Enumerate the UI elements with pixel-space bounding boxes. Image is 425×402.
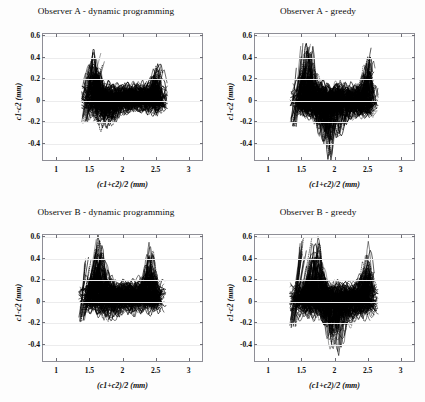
x-tick-mark	[89, 157, 90, 160]
x-tick-label: 1.5	[297, 366, 307, 375]
x-tick-mark	[123, 358, 124, 361]
y-tick-mark	[42, 301, 45, 302]
x-tick-mark	[401, 358, 402, 361]
y-tick-label: 0.2	[243, 74, 253, 83]
y-tick-mark-right	[200, 100, 203, 101]
y-tick-label: 0.6	[31, 232, 41, 241]
x-tick-mark-top	[401, 235, 402, 238]
x-tick-label: 3	[187, 165, 191, 174]
y-tick-mark	[42, 143, 45, 144]
y-tick-mark	[254, 35, 257, 36]
x-tick-mark-top	[401, 34, 402, 37]
data-cloud	[43, 235, 202, 361]
y-tick-mark-right	[412, 236, 415, 237]
y-tick-mark	[254, 100, 257, 101]
x-tick-label: 2	[333, 165, 337, 174]
x-tick-label: 2	[121, 366, 125, 375]
y-tick-mark-right	[412, 35, 415, 36]
plot-area[interactable]	[254, 33, 415, 161]
x-tick-mark	[56, 358, 57, 361]
x-axis-label: (c1+c2)/2 (mm)	[42, 381, 203, 390]
y-tick-mark	[254, 121, 257, 122]
y-tick-label: 0.6	[243, 232, 253, 241]
panel-title: Observer B - dynamic programming	[0, 207, 212, 217]
grid-line	[255, 345, 414, 346]
panel-title: Observer B - greedy	[212, 207, 424, 217]
y-tick-label: 0.6	[31, 31, 41, 40]
x-tick-mark-top	[89, 235, 90, 238]
x-axis-label: (c1+c2)/2 (mm)	[254, 381, 415, 390]
grid-line	[255, 122, 414, 123]
grid-line	[43, 259, 202, 260]
y-tick-mark-right	[200, 57, 203, 58]
y-tick-mark-right	[200, 121, 203, 122]
y-tick-label: 0.6	[243, 31, 253, 40]
plot-area[interactable]	[42, 33, 203, 161]
grid-line	[43, 302, 202, 303]
x-tick-mark-top	[268, 235, 269, 238]
x-axis-label: (c1+c2)/2 (mm)	[42, 180, 203, 189]
y-tick-mark-right	[412, 57, 415, 58]
data-cloud	[255, 34, 414, 160]
y-tick-mark-right	[200, 35, 203, 36]
x-tick-label: 2	[333, 366, 337, 375]
x-tick-label: 2.5	[151, 165, 161, 174]
y-tick-mark	[42, 57, 45, 58]
grid-line	[255, 323, 414, 324]
plot-area[interactable]	[254, 234, 415, 362]
y-tick-mark-right	[200, 344, 203, 345]
grid-line	[43, 79, 202, 80]
y-tick-mark-right	[412, 279, 415, 280]
x-tick-mark	[401, 157, 402, 160]
x-tick-mark	[89, 358, 90, 361]
x-tick-label: 1	[54, 366, 58, 375]
x-tick-mark-top	[335, 34, 336, 37]
y-tick-mark-right	[200, 279, 203, 280]
y-tick-mark-right	[412, 78, 415, 79]
y-tick-mark-right	[412, 121, 415, 122]
y-tick-label: 0.2	[31, 74, 41, 83]
x-tick-label: 1.5	[85, 366, 95, 375]
y-tick-label: 0	[36, 95, 40, 104]
y-tick-mark	[254, 301, 257, 302]
y-tick-mark-right	[412, 100, 415, 101]
y-tick-mark	[42, 258, 45, 259]
y-tick-mark	[254, 236, 257, 237]
grid-line	[43, 323, 202, 324]
data-cloud	[43, 34, 202, 160]
x-tick-mark	[189, 157, 190, 160]
x-tick-label: 2.5	[363, 366, 373, 375]
y-tick-mark-right	[200, 236, 203, 237]
x-tick-mark	[368, 157, 369, 160]
y-tick-label: 0.2	[31, 275, 41, 284]
y-tick-mark	[254, 143, 257, 144]
y-tick-mark	[42, 100, 45, 101]
figure-bland-altman-grid: Observer A - dynamic programming c1-c2 (…	[0, 0, 425, 402]
panel-top-right: Observer A - greedy c1-c2 (mm) (c1+c2)/2…	[212, 0, 424, 201]
x-tick-mark	[156, 157, 157, 160]
y-tick-mark-right	[412, 301, 415, 302]
panel-bottom-right: Observer B - greedy c1-c2 (mm) (c1+c2)/2…	[212, 201, 424, 402]
x-tick-mark-top	[156, 34, 157, 37]
x-tick-mark	[56, 157, 57, 160]
x-tick-label: 1.5	[85, 165, 95, 174]
x-tick-mark-top	[268, 34, 269, 37]
x-tick-mark	[123, 157, 124, 160]
y-tick-mark	[42, 322, 45, 323]
y-tick-label: -0.4	[28, 138, 40, 147]
plot-area[interactable]	[42, 234, 203, 362]
x-tick-mark-top	[189, 235, 190, 238]
y-tick-label: -0.2	[240, 318, 252, 327]
y-tick-label: -0.2	[28, 318, 40, 327]
y-tick-label: 0.4	[243, 52, 253, 61]
y-tick-mark-right	[200, 258, 203, 259]
x-tick-label: 3	[187, 366, 191, 375]
y-tick-mark	[42, 121, 45, 122]
x-tick-label: 2	[121, 165, 125, 174]
panel-title: Observer A - greedy	[212, 6, 424, 16]
y-tick-mark-right	[412, 143, 415, 144]
x-tick-mark-top	[56, 235, 57, 238]
grid-line	[43, 345, 202, 346]
x-tick-mark-top	[368, 235, 369, 238]
x-tick-mark	[268, 157, 269, 160]
